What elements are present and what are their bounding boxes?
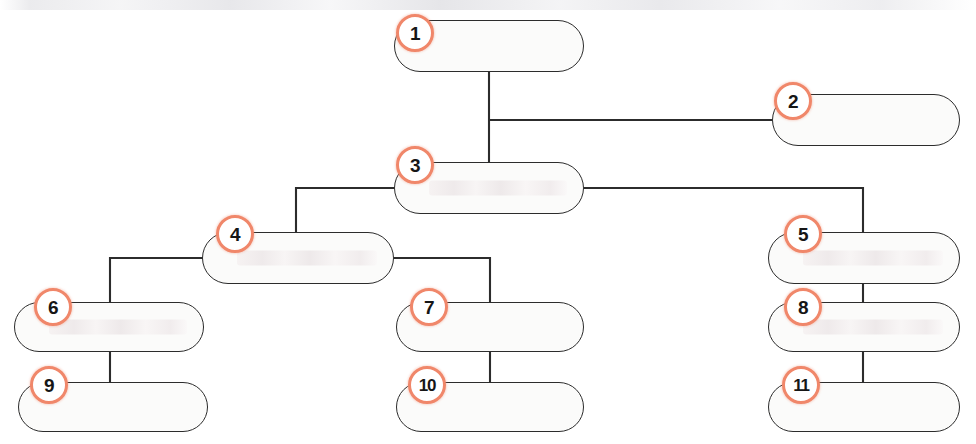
node-8-erased-label: [803, 320, 943, 335]
node-6-number-badge[interactable]: 6: [34, 288, 72, 326]
node-3-erased-label: [429, 181, 567, 196]
node-8-number-badge[interactable]: 8: [784, 288, 822, 326]
node-11-number-badge[interactable]: 11: [782, 366, 820, 404]
diagram-canvas: 1234567891011: [0, 0, 976, 444]
node-10-number-badge[interactable]: 10: [408, 366, 446, 404]
node-7-number-badge[interactable]: 7: [410, 288, 448, 326]
node-2-number-badge[interactable]: 2: [774, 82, 812, 120]
node-4-number-badge[interactable]: 4: [216, 215, 254, 253]
connector-node-3-to-node-5: [584, 188, 863, 232]
node-5-number-badge[interactable]: 5: [784, 215, 822, 253]
erased-text-band: [0, 0, 976, 10]
node-4-erased-label: [237, 251, 377, 266]
node-1-number-badge[interactable]: 1: [396, 14, 434, 52]
node-5-erased-label: [803, 251, 943, 266]
node-3-number-badge[interactable]: 3: [396, 146, 434, 184]
node-9-number-badge[interactable]: 9: [30, 366, 68, 404]
node-6-erased-label: [49, 320, 187, 335]
